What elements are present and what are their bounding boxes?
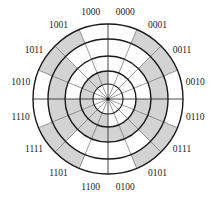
sector-label: 1000	[81, 7, 100, 17]
sector-label: 0001	[148, 20, 167, 30]
sector-label: 1100	[81, 182, 100, 192]
sector-label: 0011	[173, 45, 192, 55]
sector-label: 0000	[116, 7, 135, 17]
sector-label: 0010	[186, 77, 205, 87]
sector-label: 0100	[116, 182, 135, 192]
center-hub	[106, 97, 109, 100]
gray-code-disc: 0000000100110010011001110101010011001101…	[0, 0, 215, 201]
sector-label: 0101	[148, 168, 167, 178]
sector-label: 1101	[49, 168, 68, 178]
sector-label: 1110	[12, 112, 31, 122]
sector-label: 1001	[49, 20, 68, 30]
sector-label: 0110	[186, 112, 205, 122]
sector-label: 1111	[25, 144, 43, 154]
sector-label: 1010	[11, 77, 30, 87]
sector-label: 0111	[173, 144, 192, 154]
sector-label: 1011	[25, 45, 44, 55]
